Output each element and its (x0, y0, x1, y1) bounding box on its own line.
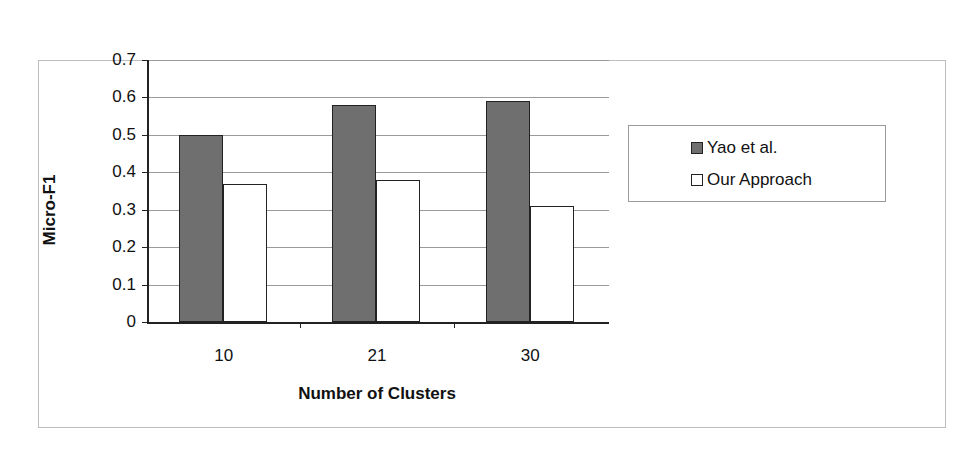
plot-area (147, 60, 609, 324)
x-tick-label: 21 (347, 346, 407, 366)
y-tick-label: 0 (96, 312, 136, 332)
legend-swatch-our-approach (691, 174, 703, 186)
y-tick-label: 0.3 (96, 200, 136, 220)
y-tick-label: 0.6 (96, 87, 136, 107)
x-tick-mark (300, 322, 301, 328)
x-tick-mark (454, 322, 455, 328)
x-axis-label: Number of Clusters (147, 384, 607, 404)
bar-yao-21 (332, 105, 376, 322)
y-tick-label: 0.4 (96, 162, 136, 182)
gridline (149, 60, 609, 61)
legend-item-our-approach: Our Approach (691, 170, 812, 190)
y-tick-label: 0.2 (96, 237, 136, 257)
bar-our-approach-21 (376, 180, 420, 322)
y-axis-label: Micro-F1 (40, 175, 60, 246)
x-tick-label: 30 (500, 346, 560, 366)
legend-label-our-approach: Our Approach (707, 170, 812, 190)
legend-item-yao: Yao et al. (691, 138, 778, 158)
y-tick-label: 0.5 (96, 125, 136, 145)
legend-label-yao: Yao et al. (707, 138, 778, 158)
legend-swatch-yao (691, 142, 703, 154)
x-tick-label: 10 (194, 346, 254, 366)
y-tick-label: 0.7 (96, 50, 136, 70)
bar-our-approach-30 (530, 206, 574, 322)
y-tick-label: 0.1 (96, 275, 136, 295)
gridline (149, 97, 609, 98)
legend: Yao et al. Our Approach (628, 125, 886, 202)
bar-yao-30 (486, 101, 530, 322)
bar-our-approach-10 (223, 184, 267, 322)
bar-yao-10 (179, 135, 223, 322)
